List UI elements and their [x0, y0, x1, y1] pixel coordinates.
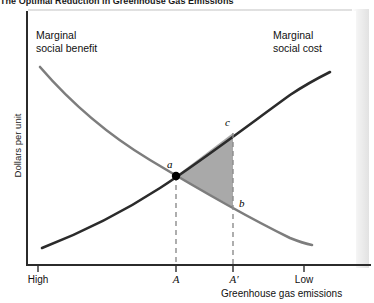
marginal-social-benefit-curve	[40, 67, 312, 245]
msb-label-line1: Marginal	[36, 29, 76, 41]
msb-label-line2: social benefit	[36, 42, 97, 54]
x-tick-label-a-prime: A′	[229, 273, 238, 285]
msc-label-line1: Marginal	[273, 29, 313, 41]
marginal-social-benefit-label: Marginal social benefit	[36, 29, 97, 55]
figure-container: The Optimal Reduction in Greenhouse Gas …	[0, 0, 374, 303]
point-label-a: a	[167, 158, 173, 170]
x-axis-label: Greenhouse gas emissions	[221, 288, 342, 299]
point-marker-a	[172, 172, 180, 180]
point-label-b: b	[239, 197, 245, 209]
marginal-social-cost-curve	[42, 72, 330, 248]
msc-label-line2: social cost	[273, 42, 322, 54]
x-tick-label-high: High	[28, 274, 49, 285]
x-tick-label-a: A	[173, 273, 180, 285]
x-tick-label-low: Low	[295, 274, 313, 285]
marginal-social-cost-label: Marginal social cost	[273, 29, 322, 55]
point-label-c: c	[225, 116, 230, 128]
